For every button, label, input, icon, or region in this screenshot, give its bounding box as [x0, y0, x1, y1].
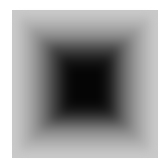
gradient-square [12, 10, 158, 158]
gradient-blur-layer [12, 10, 158, 158]
gradient-core [68, 66, 104, 106]
